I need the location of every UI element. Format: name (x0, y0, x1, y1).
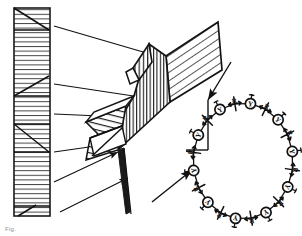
figure-canvas: YRYRYRYRYRYRYRYRYRYR (0, 0, 302, 236)
stacked-lamellae-column (14, 8, 50, 216)
figure-caption: Fig. (5, 226, 95, 236)
diagram-svg: YRYRYRYRYRYRYRYRYRYR (0, 0, 302, 236)
